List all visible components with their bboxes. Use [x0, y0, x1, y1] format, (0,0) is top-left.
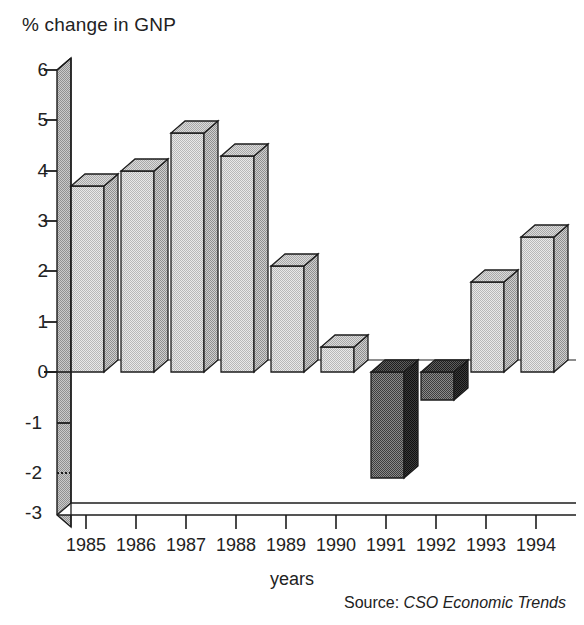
source-label: Source: [344, 594, 399, 611]
plot-area [0, 0, 584, 625]
plot-floor-3d [57, 503, 576, 515]
x-axis-tick-label: 1992 [410, 536, 462, 554]
bar-1986[interactable] [121, 159, 168, 372]
x-axis-title: years [0, 569, 584, 590]
bar-1987[interactable] [171, 121, 218, 372]
bar-1988[interactable] [221, 144, 268, 372]
x-axis-tick-label: 1986 [110, 536, 162, 554]
bar-1994[interactable] [521, 225, 568, 372]
x-axis-tick-label: 1985 [60, 536, 112, 554]
x-axis-tick-label: 1991 [360, 536, 412, 554]
bar-1989[interactable] [271, 254, 318, 372]
axis-wall-3d [57, 58, 71, 527]
bar-1992[interactable] [421, 360, 468, 400]
x-axis-tick-label: 1988 [210, 536, 262, 554]
bar-1991[interactable] [371, 360, 418, 478]
bar-1993[interactable] [471, 270, 518, 372]
x-axis-tick-label: 1989 [260, 536, 312, 554]
bar-1985[interactable] [71, 174, 118, 372]
x-axis-tick-label: 1993 [460, 536, 512, 554]
x-axis-tick-label: 1994 [510, 536, 562, 554]
x-axis-tick-label: 1987 [160, 536, 212, 554]
source-value: CSO Economic Trends [404, 594, 566, 611]
gnp-bar-chart: % change in GNP 6 5 4 3 2 1 0 -1 -2 -3 [0, 0, 584, 625]
bar-1990[interactable] [321, 335, 368, 372]
source-note: Source: CSO Economic Trends [344, 594, 566, 612]
y-axis-ticks [44, 70, 57, 372]
x-axis-tick-label: 1990 [310, 536, 362, 554]
x-axis-ticks [86, 515, 536, 529]
